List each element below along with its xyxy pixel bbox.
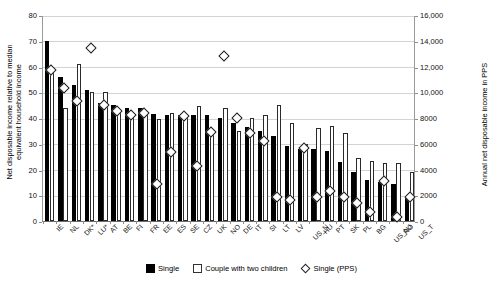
y-axis-left-tick-mark [39, 119, 42, 120]
x-axis-tick-label: SE [189, 223, 201, 235]
x-axis-tick-label: SK [348, 223, 360, 235]
y-axis-right-tick-label: 0 [420, 217, 464, 226]
y-axis-right-tick-label: 10,000 [420, 88, 464, 97]
x-axis-tick-label: BE [122, 223, 134, 235]
y-axis-left-tick-mark [39, 68, 42, 69]
x-axis-tick-label: EE [162, 223, 174, 235]
bar-group [136, 16, 149, 221]
marker-single-pps [218, 50, 229, 61]
bar-couple-with-two-children [117, 109, 121, 221]
bar-group [389, 16, 402, 221]
x-axis-tick-label: CZ [202, 223, 214, 235]
bar-group [309, 16, 322, 221]
x-axis-tick-label: NO [229, 223, 241, 235]
bar-single [338, 162, 342, 221]
y-axis-right-tick-mark [415, 16, 418, 17]
y-axis-right-tick-mark [415, 222, 418, 223]
y-axis-left-tick-mark [39, 171, 42, 172]
bar-group [203, 16, 216, 221]
y-axis-right-title: Annual net disposable income in PPS [480, 45, 489, 205]
bar-single [125, 108, 129, 221]
legend-label-single-pps: Single (PPS) [313, 264, 356, 273]
x-axis-tick-label: PT [335, 223, 346, 234]
open-diamond-icon [301, 264, 311, 274]
bar-group [96, 16, 109, 221]
bar-single [178, 115, 182, 221]
bar-couple-with-two-children [63, 108, 67, 221]
bar-couple-with-two-children [316, 128, 320, 221]
y-axis-right-tick-mark [415, 119, 418, 120]
bar-couple-with-two-children [77, 64, 81, 221]
y-axis-right-tick-label: 14,000 [420, 37, 464, 46]
x-axis-tick-label: NL [69, 223, 80, 234]
bar-couple-with-two-children [356, 158, 360, 221]
y-axis-left-tick-label: 20 [0, 166, 37, 175]
bar-couple-with-two-children [157, 119, 161, 221]
y-axis-left-tick-mark [39, 196, 42, 197]
bar-couple-with-two-children [383, 163, 387, 221]
y-axis-left-tick-label: 60 [0, 63, 37, 72]
plot-area [42, 16, 415, 222]
bar-single [245, 127, 249, 221]
bar-single [218, 118, 222, 221]
y-axis-right-tick-label: 12,000 [420, 63, 464, 72]
bar-single [271, 136, 275, 221]
bar-group [336, 16, 349, 221]
bar-group [70, 16, 83, 221]
bar-couple-with-two-children [183, 118, 187, 221]
bar-group [216, 16, 229, 221]
bar-couple-with-two-children [263, 115, 267, 221]
x-axis-tick-label: IT [254, 223, 263, 232]
bar-couple-with-two-children [103, 92, 107, 221]
bar-group [403, 16, 416, 221]
bar-couple-with-two-children [330, 126, 334, 221]
y-axis-right-tick-label: 16,000 [420, 11, 464, 20]
bar-group [56, 16, 69, 221]
bar-single [98, 103, 102, 221]
x-axis-tick-label: SI [268, 223, 278, 233]
bar-couple-with-two-children [223, 108, 227, 221]
legend-item-single: Single [146, 264, 179, 273]
y-axis-right-tick-mark [415, 145, 418, 146]
open-square-icon [193, 264, 202, 273]
bar-group [230, 16, 243, 221]
x-axis-tick-label: IE [55, 223, 65, 233]
bar-couple-with-two-children [50, 68, 54, 221]
x-axis-tick-label: LU* [96, 223, 109, 236]
y-axis-left-tick-label: 40 [0, 114, 37, 123]
bar-group [190, 16, 203, 221]
bar-group [256, 16, 269, 221]
chart-legend: Single Couple with two children Single (… [0, 264, 503, 273]
bar-group [83, 16, 96, 221]
y-axis-right-tick-label: 4000 [420, 166, 464, 175]
y-axis-left-tick-label: 30 [0, 140, 37, 149]
bar-group [323, 16, 336, 221]
y-axis-left-tick-mark [39, 145, 42, 146]
bar-single [285, 146, 289, 221]
bar-group [176, 16, 189, 221]
bar-couple-with-two-children [170, 113, 174, 221]
x-axis-tick-label: FI [134, 223, 143, 232]
marker-single-pps [231, 112, 242, 123]
y-axis-left-tick-mark [39, 16, 42, 17]
bar-couple-with-two-children [237, 131, 241, 221]
bar-single [351, 172, 355, 221]
bar-couple-with-two-children [90, 92, 94, 221]
y-axis-right-tick-label: 6000 [420, 140, 464, 149]
x-axis-tick-label: LT [281, 223, 291, 233]
bar-group [110, 16, 123, 221]
bar-single [85, 90, 89, 221]
x-axis-tick-label: PL [362, 223, 373, 234]
x-axis-labels: IENLDK*LU*ATBEFIFREEESSECZUKNODEITSILTLV… [42, 223, 415, 257]
y-axis-left-tick-mark [39, 93, 42, 94]
legend-item-couple: Couple with two children [193, 264, 287, 273]
filled-square-icon [146, 264, 155, 273]
y-axis-left-tick-label: 70 [0, 37, 37, 46]
x-axis-tick-label: DK* [83, 223, 97, 237]
chart-container: Net disposable income relative to median… [0, 0, 503, 285]
bar-couple-with-two-children [343, 133, 347, 221]
bar-group [363, 16, 376, 221]
x-axis-tick-label: FR [149, 223, 161, 235]
bar-couple-with-two-children [143, 115, 147, 221]
bar-group [349, 16, 362, 221]
